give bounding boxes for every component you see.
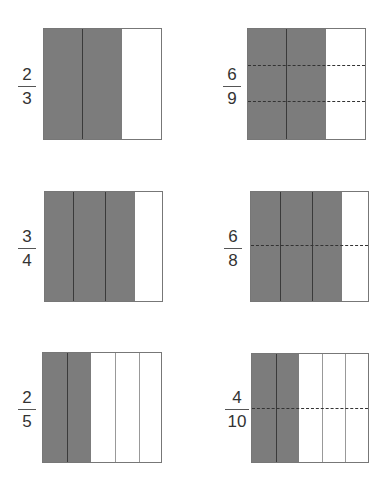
shaded-region — [44, 29, 122, 139]
fraction-label-2-5: 2 5 — [12, 389, 42, 431]
denominator: 10 — [228, 412, 247, 431]
column-divider — [105, 192, 106, 301]
shaded-region — [251, 192, 342, 301]
denominator: 3 — [22, 89, 31, 108]
fraction-bar — [224, 248, 242, 249]
denominator: 5 — [22, 412, 31, 431]
column-divider — [312, 192, 313, 301]
denominator: 4 — [22, 251, 31, 270]
area-model-6-9 — [247, 28, 366, 140]
area-model-6-8 — [250, 191, 369, 302]
numerator: 6 — [227, 65, 236, 84]
fraction-bar — [18, 409, 36, 410]
fraction-bar — [223, 86, 241, 87]
fraction-label-6-8: 6 8 — [218, 228, 248, 270]
row-divider-dashed — [252, 408, 368, 409]
denominator: 9 — [227, 89, 236, 108]
column-divider — [280, 192, 281, 301]
fraction-label-3-4: 3 4 — [12, 228, 42, 270]
fraction-label-6-9: 6 9 — [217, 66, 247, 108]
column-divider — [67, 353, 68, 462]
numerator: 6 — [228, 227, 237, 246]
column-divider — [73, 192, 74, 301]
area-model-2-3 — [43, 28, 162, 140]
fraction-bar — [18, 248, 36, 249]
column-divider — [139, 353, 140, 462]
fraction-label-2-3: 2 3 — [12, 66, 42, 108]
row-divider-dashed — [248, 101, 365, 102]
denominator: 8 — [228, 251, 237, 270]
numerator: 4 — [232, 388, 241, 407]
area-model-2-5 — [42, 352, 162, 463]
numerator: 2 — [22, 65, 31, 84]
area-model-3-4 — [44, 191, 163, 302]
column-divider — [286, 29, 287, 139]
area-model-4-10 — [251, 353, 369, 463]
shaded-region — [45, 192, 135, 301]
fraction-label-4-10: 4 10 — [222, 389, 252, 431]
column-divider — [115, 353, 116, 462]
numerator: 3 — [22, 227, 31, 246]
fraction-bar — [18, 86, 36, 87]
row-divider-dashed — [248, 65, 365, 66]
row-divider-dashed — [251, 245, 368, 246]
shaded-region — [248, 29, 326, 139]
numerator: 2 — [22, 388, 31, 407]
fraction-bar — [225, 409, 249, 410]
column-divider — [82, 29, 83, 139]
